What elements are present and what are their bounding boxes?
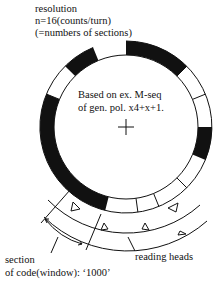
- section-label: section: [5, 253, 35, 266]
- reading-head-holder: [44, 200, 207, 251]
- section-window-label: of code(window): ‘1000’: [5, 266, 111, 279]
- center-crosshair: [118, 119, 134, 135]
- code-disk-diagram: [0, 0, 222, 291]
- note-line-2: of gen. pol. x4+x+1.: [78, 101, 164, 114]
- reading-heads: [71, 202, 186, 235]
- note-line-1: Based on ex. M-seq: [78, 88, 161, 101]
- reading-heads-label: reading heads: [135, 250, 193, 263]
